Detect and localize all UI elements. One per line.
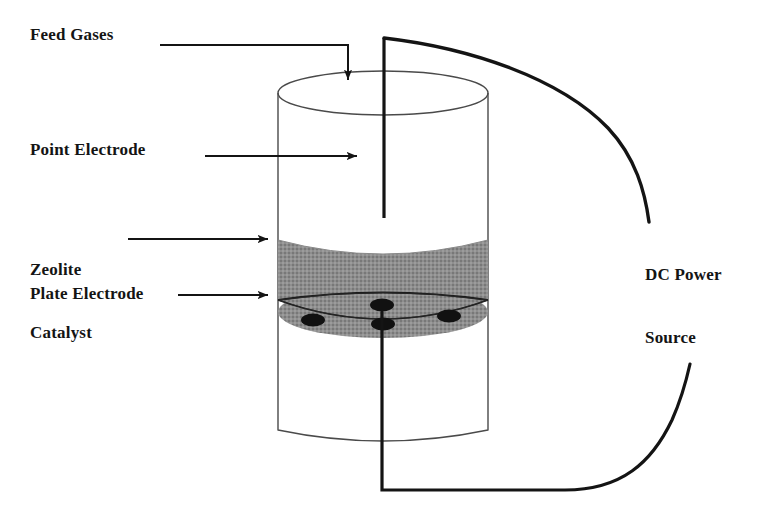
- plate-hole-2: [370, 299, 394, 312]
- plate-hole-1: [301, 314, 325, 327]
- plate-hole-4: [437, 310, 461, 323]
- label-zeolite-catalyst-line1: Zeolite: [30, 259, 92, 280]
- label-zeolite-catalyst-line2: Catalyst: [30, 322, 92, 343]
- label-dc-power-source-line1: DC Power: [645, 264, 722, 285]
- label-dc-power-source-line2: Source: [645, 327, 722, 348]
- label-dc-power-source: DC Power Source: [645, 222, 722, 390]
- label-point-electrode: Point Electrode: [30, 139, 146, 160]
- diagram-canvas: Feed Gases Point Electrode Zeolite Catal…: [0, 0, 782, 518]
- label-feed-gases: Feed Gases: [30, 24, 114, 45]
- label-plate-electrode: Plate Electrode: [30, 283, 144, 304]
